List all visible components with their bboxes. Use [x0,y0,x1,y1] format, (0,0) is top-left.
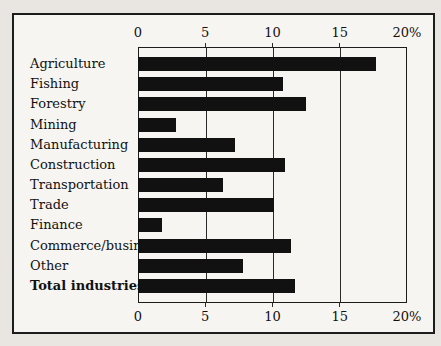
bar-track [138,118,407,132]
chart-frame: 05101520% AgricultureFishingForestryMini… [12,13,435,334]
bar-rows: AgricultureFishingForestryMiningManufact… [22,47,407,303]
category-label: Agriculture [22,57,138,71]
bar-track [138,178,407,192]
bar-row: Agriculture [22,57,407,71]
bar [138,118,176,132]
bar-track [138,97,407,111]
category-label: Fishing [22,77,138,91]
bar-track [138,279,407,293]
category-label: Construction [22,158,138,172]
bar [138,77,283,91]
bar [138,57,376,71]
x-tick-top-5: 5 [201,26,209,40]
bar-row: Manufacturing [22,138,407,152]
scanned-chart-page: 05101520% AgricultureFishingForestryMini… [0,0,441,346]
bar-row: Fishing [22,77,407,91]
x-tick-bottom-20%: 20% [393,310,422,324]
bar [138,279,295,293]
bar-track [138,57,407,71]
category-label: Other [22,259,138,273]
bar-row: Construction [22,158,407,172]
bar-row: Commerce/business [22,239,407,253]
tick-bottom-5 [205,303,206,307]
bar-row: Other [22,259,407,273]
x-tick-top-20%: 20% [393,26,422,40]
bar [138,158,285,172]
bar [138,97,306,111]
bar-track [138,198,407,212]
bar [138,178,223,192]
bar-track [138,218,407,232]
bar-row: Total industries [22,279,407,293]
bar [138,239,291,253]
category-label: Mining [22,118,138,132]
category-label: Forestry [22,97,138,111]
bar-row: Trade [22,198,407,212]
category-label: Commerce/business [22,239,138,253]
bar-row: Forestry [22,97,407,111]
bar-row: Finance [22,218,407,232]
tick-bottom-10 [272,303,273,307]
x-tick-bottom-5: 5 [201,310,209,324]
category-label: Transportation [22,178,138,192]
bar [138,198,274,212]
bar [138,218,162,232]
bar [138,138,235,152]
bar-track [138,259,407,273]
bar-track [138,138,407,152]
bar-track [138,77,407,91]
bar [138,259,243,273]
x-tick-top-10: 10 [264,26,281,40]
x-tick-top-0: 0 [134,26,142,40]
bar-row: Transportation [22,178,407,192]
x-tick-bottom-10: 10 [264,310,281,324]
bar-track [138,239,407,253]
x-tick-bottom-15: 15 [331,310,348,324]
x-tick-bottom-0: 0 [134,310,142,324]
bar-track [138,158,407,172]
category-label: Total industries [22,279,138,293]
x-tick-top-15: 15 [331,26,348,40]
category-label: Manufacturing [22,138,138,152]
tick-bottom-15 [339,303,340,307]
category-label: Finance [22,218,138,232]
bar-row: Mining [22,118,407,132]
category-label: Trade [22,198,138,212]
